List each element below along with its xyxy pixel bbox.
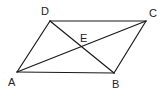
label-E: E [80, 32, 87, 44]
label-C: C [149, 7, 157, 19]
label-D: D [41, 5, 49, 17]
segments-group [17, 21, 146, 73]
parallelogram-diagram: A B C D E [0, 0, 164, 95]
label-A: A [8, 76, 16, 88]
label-B: B [112, 78, 119, 90]
side-AB [17, 72, 114, 73]
diagonal-DB [50, 21, 114, 73]
side-BC [114, 21, 146, 73]
side-DA [17, 21, 50, 72]
